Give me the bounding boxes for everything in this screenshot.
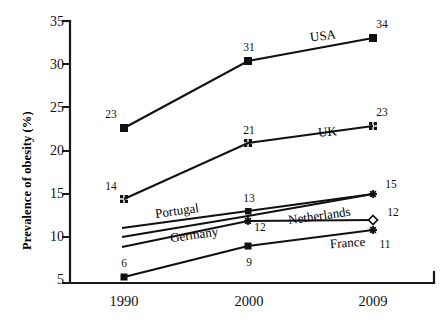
series-label-usa: USA [309,26,337,45]
point-label-germany-2000: 12 [247,221,273,233]
marker-germany-2009 [369,216,378,225]
point-label-usa-2000: 31 [236,41,262,53]
point-label-portugal-2000: 13 [236,192,262,204]
marker-france-2000 [245,243,252,250]
marker-france-1990 [121,274,128,281]
point-label-portugal-2009: 15 [378,178,404,190]
obesity-line-chart: Prevalence of obesity (%) 35 30 25 20 15… [0,0,447,323]
series-markers-portugal [245,208,252,215]
marker-usa-2000 [244,57,252,65]
series-label-uk: UK [317,123,337,141]
point-label-usa-1990: 23 [98,108,124,120]
point-label-uk-1990: 14 [98,180,124,192]
point-label-france-1990: 6 [111,257,137,269]
plot-area [0,0,447,323]
point-label-uk-2009: 23 [369,106,395,118]
point-label-france-2009: 11 [372,238,398,250]
marker-usa-1990 [120,124,128,132]
marker-france-2009 [369,226,377,234]
marker-portugal-2000 [245,208,252,215]
point-label-uk-2000: 21 [236,124,262,136]
marker-portugal-2009 [369,190,377,198]
point-label-germany-2009: 12 [380,206,406,218]
series-label-france: France [329,234,365,252]
marker-usa-2009 [369,34,377,42]
point-label-usa-2009: 34 [369,18,395,30]
point-label-france-2000: 9 [236,256,262,268]
